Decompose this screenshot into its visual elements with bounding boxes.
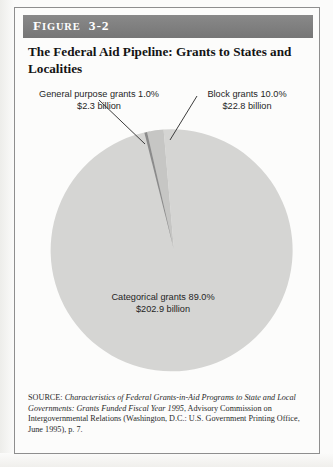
source-prefix: SOURCE: bbox=[28, 393, 65, 402]
callout-general-line2: $2.3 billion bbox=[23, 101, 175, 113]
callout-categorical-line1: Categorical grants 89.0% bbox=[63, 292, 263, 304]
pie-chart: General purpose grants 1.0% $2.3 billion… bbox=[15, 78, 321, 388]
callout-categorical-grants: Categorical grants 89.0% $202.9 billion bbox=[63, 292, 263, 315]
figure-label: FIGURE 3-2 bbox=[33, 18, 109, 34]
source-note: SOURCE: Characteristics of Federal Grant… bbox=[28, 393, 309, 435]
figure-header-band: FIGURE 3-2 bbox=[23, 15, 313, 38]
pie-chart-svg bbox=[15, 78, 321, 388]
figure-box: FIGURE 3-2 The Federal Aid Pipeline: Gra… bbox=[14, 7, 320, 454]
pie-slice-categorical bbox=[51, 129, 293, 371]
figure-title: The Federal Aid Pipeline: Grants to Stat… bbox=[28, 44, 308, 77]
callout-block-line1: Block grants 10.0% bbox=[183, 89, 311, 101]
callout-categorical-line2: $202.9 billion bbox=[63, 304, 263, 316]
callout-block-grants: Block grants 10.0% $22.8 billion bbox=[183, 89, 311, 112]
scanned-page: FIGURE 3-2 The Federal Aid Pipeline: Gra… bbox=[0, 0, 333, 467]
callout-general-purpose-grants: General purpose grants 1.0% $2.3 billion bbox=[23, 89, 175, 112]
scan-edge-bottom bbox=[0, 453, 333, 467]
callout-block-line2: $22.8 billion bbox=[183, 101, 311, 113]
callout-general-line1: General purpose grants 1.0% bbox=[23, 89, 175, 101]
scan-edge-left bbox=[0, 0, 14, 467]
